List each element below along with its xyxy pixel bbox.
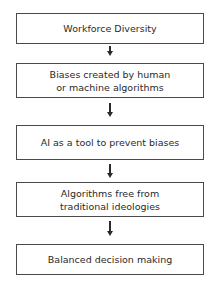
step-label: Workforce Diversity [63, 22, 156, 35]
step-label: AI as a tool to prevent biases [41, 136, 180, 149]
step-box-algorithms-free: Algorithms free from traditional ideolog… [16, 182, 204, 217]
step-box-workforce-diversity: Workforce Diversity [16, 13, 204, 44]
step-box-ai-tool: AI as a tool to prevent biases [16, 125, 204, 160]
step-label: Balanced decision making [48, 253, 172, 266]
step-label: Algorithms free from traditional ideolog… [55, 187, 165, 213]
step-box-biases: Biases created by human or machine algor… [16, 63, 204, 98]
step-box-balanced-decision: Balanced decision making [16, 244, 204, 275]
step-label: Biases created by human or machine algor… [45, 68, 175, 94]
